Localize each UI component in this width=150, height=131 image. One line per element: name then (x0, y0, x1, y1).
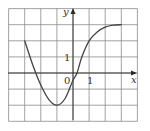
origin-label: 0 (64, 75, 70, 86)
y-axis-label: y (62, 6, 69, 17)
y-tick-label-1: 1 (64, 52, 70, 63)
function-graph: y x 0 1 1 (0, 0, 150, 131)
x-tick-label-1: 1 (87, 75, 93, 86)
x-axis-label: x (131, 74, 137, 85)
